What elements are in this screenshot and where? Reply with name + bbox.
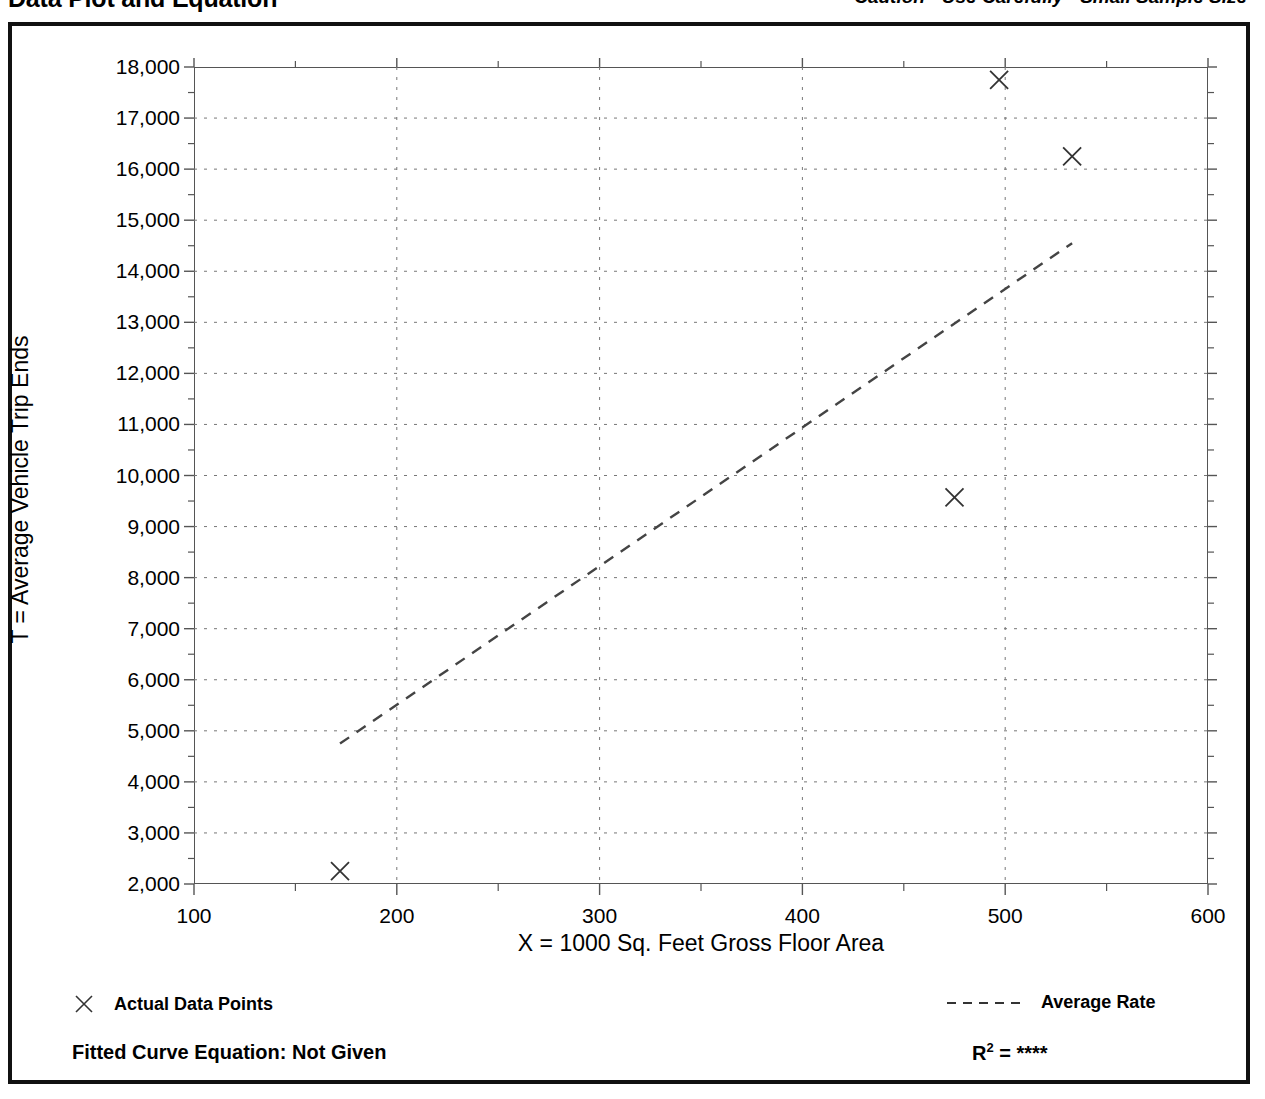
x-axis-title: X = 1000 Sq. Feet Gross Floor Area xyxy=(194,930,1208,957)
x-tick-label: 600 xyxy=(1190,904,1225,928)
y-tick-label: 18,000 xyxy=(80,55,180,79)
y-tick-label: 2,000 xyxy=(80,872,180,896)
y-axis-title: T = Average Vehicle Trip Ends xyxy=(7,336,34,644)
x-tick-label: 300 xyxy=(582,904,617,928)
y-tick-label: 3,000 xyxy=(80,821,180,845)
r-squared-exponent: 2 xyxy=(986,1040,993,1055)
x-marker-icon xyxy=(72,992,96,1016)
y-tick-label: 4,000 xyxy=(80,770,180,794)
x-tick-label: 200 xyxy=(379,904,414,928)
y-tick-label: 12,000 xyxy=(80,361,180,385)
r-squared-prefix: R xyxy=(972,1042,986,1064)
y-tick-label: 8,000 xyxy=(80,566,180,590)
y-tick-label: 15,000 xyxy=(80,208,180,232)
y-tick-label: 13,000 xyxy=(80,310,180,334)
legend-actual-data-points-label: Actual Data Points xyxy=(114,994,273,1015)
y-tick-label: 16,000 xyxy=(80,157,180,181)
legend-actual-data-points: Actual Data Points xyxy=(72,992,273,1016)
legend-average-rate-label: Average Rate xyxy=(1041,992,1155,1013)
chart-region: 2,0003,0004,0005,0006,0007,0008,0009,000… xyxy=(0,0,1265,1099)
x-tick-label: 500 xyxy=(988,904,1023,928)
y-tick-label: 10,000 xyxy=(80,464,180,488)
x-tick-label: 400 xyxy=(785,904,820,928)
y-tick-label: 6,000 xyxy=(80,668,180,692)
r-squared-stars: **** xyxy=(1016,1042,1047,1064)
legend-average-rate: Average Rate xyxy=(945,992,1155,1013)
r-squared-equals: = xyxy=(994,1042,1017,1064)
r-squared-value: R2 = **** xyxy=(972,1040,1048,1065)
dashed-line-icon xyxy=(945,996,1023,1010)
y-tick-label: 17,000 xyxy=(80,106,180,130)
x-tick-label: 100 xyxy=(176,904,211,928)
fitted-curve-equation: Fitted Curve Equation: Not Given xyxy=(72,1041,386,1064)
y-tick-label: 7,000 xyxy=(80,617,180,641)
y-tick-label: 5,000 xyxy=(80,719,180,743)
y-tick-label: 14,000 xyxy=(80,259,180,283)
plot-frame xyxy=(194,67,1208,884)
y-tick-label: 11,000 xyxy=(80,412,180,436)
y-tick-label: 9,000 xyxy=(80,515,180,539)
